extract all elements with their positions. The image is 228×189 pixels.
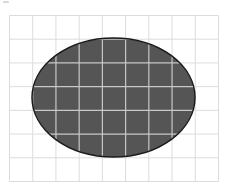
grid-figure xyxy=(0,0,228,189)
